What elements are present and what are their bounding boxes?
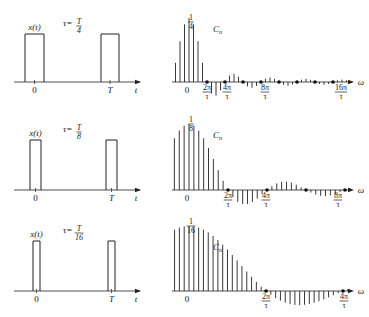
freq-tick-2: 4πτ (223, 83, 232, 101)
freq-zero-label: 0 (185, 193, 190, 203)
zero-crossing-dot (313, 80, 317, 84)
peak-value-den: 4 (189, 22, 193, 31)
zero-crossing-dot (343, 188, 347, 192)
freq-tick-1-num: 2π (203, 83, 211, 92)
time-zero-label: 0 (34, 294, 39, 304)
tau-fraction: T4 (76, 17, 81, 35)
rect-pulse (33, 241, 40, 291)
freq-tick-2: 4πτ (262, 191, 271, 209)
freq-tick-2-den: τ (225, 92, 229, 101)
zero-crossing-dot (304, 188, 308, 192)
freq-tick-1-den: τ (226, 200, 230, 209)
time-zero-label: 0 (33, 193, 38, 203)
peak-value: 18 (188, 115, 193, 133)
zero-crossing-dot (277, 80, 281, 84)
tau-fraction-num: T (77, 224, 82, 233)
tau-fraction-den: 4 (77, 26, 81, 35)
freq-tick-3-den: τ (263, 92, 267, 101)
freq-tick-2-den: τ (264, 200, 268, 209)
time-var-label: t (135, 294, 138, 304)
freq-tick-1-num: 2π (224, 191, 232, 200)
tau-fraction: T8 (76, 123, 81, 141)
zero-crossing-dot (241, 80, 245, 84)
freq-tick-2: 4πτ (340, 292, 349, 310)
signal-label: x(t) (29, 229, 43, 239)
zero-crossing-dot (295, 80, 299, 84)
freq-tick-3-num: 8π (334, 191, 342, 200)
spectrum-label: Cn (213, 242, 222, 253)
tau-fraction-num: T (77, 17, 82, 26)
axis-arrow-icon (135, 80, 141, 84)
tau-label: τ= (63, 18, 72, 28)
rect-pulse (25, 34, 44, 82)
frequency-var-label: ω (358, 185, 364, 195)
freq-tick-1: 2πτ (224, 191, 233, 209)
freq-tick-1: 2πτ (203, 83, 212, 101)
spectrum-label: Cn (213, 130, 222, 141)
tau-fraction-num: T (77, 123, 82, 132)
peak-value-num: 1 (189, 115, 193, 124)
spectrum-plot: ω02πτ4πτ8πτ16πτ14Cn (172, 13, 364, 101)
freq-tick-4-den: τ (339, 92, 343, 101)
rect-pulse (30, 140, 41, 190)
signal-label: x(t) (28, 128, 42, 138)
time-period-label: T (107, 85, 113, 95)
rect-pulse (106, 140, 117, 190)
freq-tick-3: 8πτ (334, 191, 343, 209)
freq-tick-4-num: 16π (335, 83, 347, 92)
freq-tick-3-num: 8π (261, 83, 269, 92)
tau-label: τ= (63, 225, 72, 235)
freq-tick-3-den: τ (336, 200, 340, 209)
axis-arrow-icon (135, 188, 141, 192)
time-var-label: t (135, 193, 138, 203)
freq-zero-label: 0 (185, 294, 190, 304)
freq-zero-label: 0 (185, 85, 190, 95)
axis-arrow-icon (348, 80, 354, 84)
tau-fraction-den: 8 (77, 132, 81, 141)
spectrum-plot: ω02πτ4πτ116Cn (172, 217, 364, 310)
peak-value-num: 1 (189, 217, 193, 226)
freq-tick-1: 2πτ (262, 292, 271, 310)
rect-pulse (101, 34, 119, 82)
freq-tick-1-den: τ (205, 92, 209, 101)
frequency-var-label: ω (358, 286, 364, 296)
freq-tick-1-den: τ (264, 301, 268, 310)
panel-quarter: 0Ttx(t)τ=T4ω02πτ4πτ8πτ16πτ14Cn (14, 13, 364, 101)
time-zero-label: 0 (32, 85, 37, 95)
peak-value: 14 (188, 13, 193, 31)
axis-arrow-icon (135, 289, 141, 293)
tau-label: τ= (63, 124, 72, 134)
peak-value-den: 16 (187, 226, 195, 235)
freq-tick-4: 16πτ (335, 83, 347, 101)
time-period-label: T (109, 193, 115, 203)
panel-eighth: 0Ttx(t)τ=T8ω02πτ4πτ8πτ18Cn (14, 115, 364, 209)
rect-pulse (108, 241, 115, 291)
spectrum-label: Cn (213, 24, 222, 35)
axis-arrow-icon (348, 188, 354, 192)
fourier-spectrum-figure: 0Ttx(t)τ=T4ω02πτ4πτ8πτ16πτ14Cn0Ttx(t)τ=T… (0, 0, 369, 317)
time-domain-plot: 0Ttx(t)τ=T4 (14, 17, 141, 95)
peak-value-num: 1 (189, 13, 193, 22)
tau-fraction-den: 16 (75, 233, 83, 242)
time-domain-plot: 0Ttx(t)τ=T8 (14, 123, 141, 203)
time-var-label: t (135, 85, 138, 95)
tau-fraction: T16 (75, 224, 84, 242)
time-period-label: T (109, 294, 115, 304)
panel-sixteenth: 0Ttx(t)τ=T16ω02πτ4πτ116Cn (14, 217, 364, 310)
freq-tick-2-num: 4π (223, 83, 231, 92)
peak-value-den: 8 (189, 124, 193, 133)
freq-tick-2-num: 4π (262, 191, 270, 200)
freq-tick-3: 8πτ (261, 83, 270, 101)
frequency-var-label: ω (358, 77, 364, 87)
axis-arrow-icon (348, 289, 354, 293)
peak-value: 116 (187, 217, 196, 235)
freq-tick-2-num: 4π (340, 292, 348, 301)
spectrum-plot: ω02πτ4πτ8πτ18Cn (172, 115, 364, 209)
time-domain-plot: 0Ttx(t)τ=T16 (14, 224, 141, 304)
freq-tick-2-den: τ (342, 301, 346, 310)
freq-tick-1-num: 2π (262, 292, 270, 301)
signal-label: x(t) (27, 22, 41, 32)
